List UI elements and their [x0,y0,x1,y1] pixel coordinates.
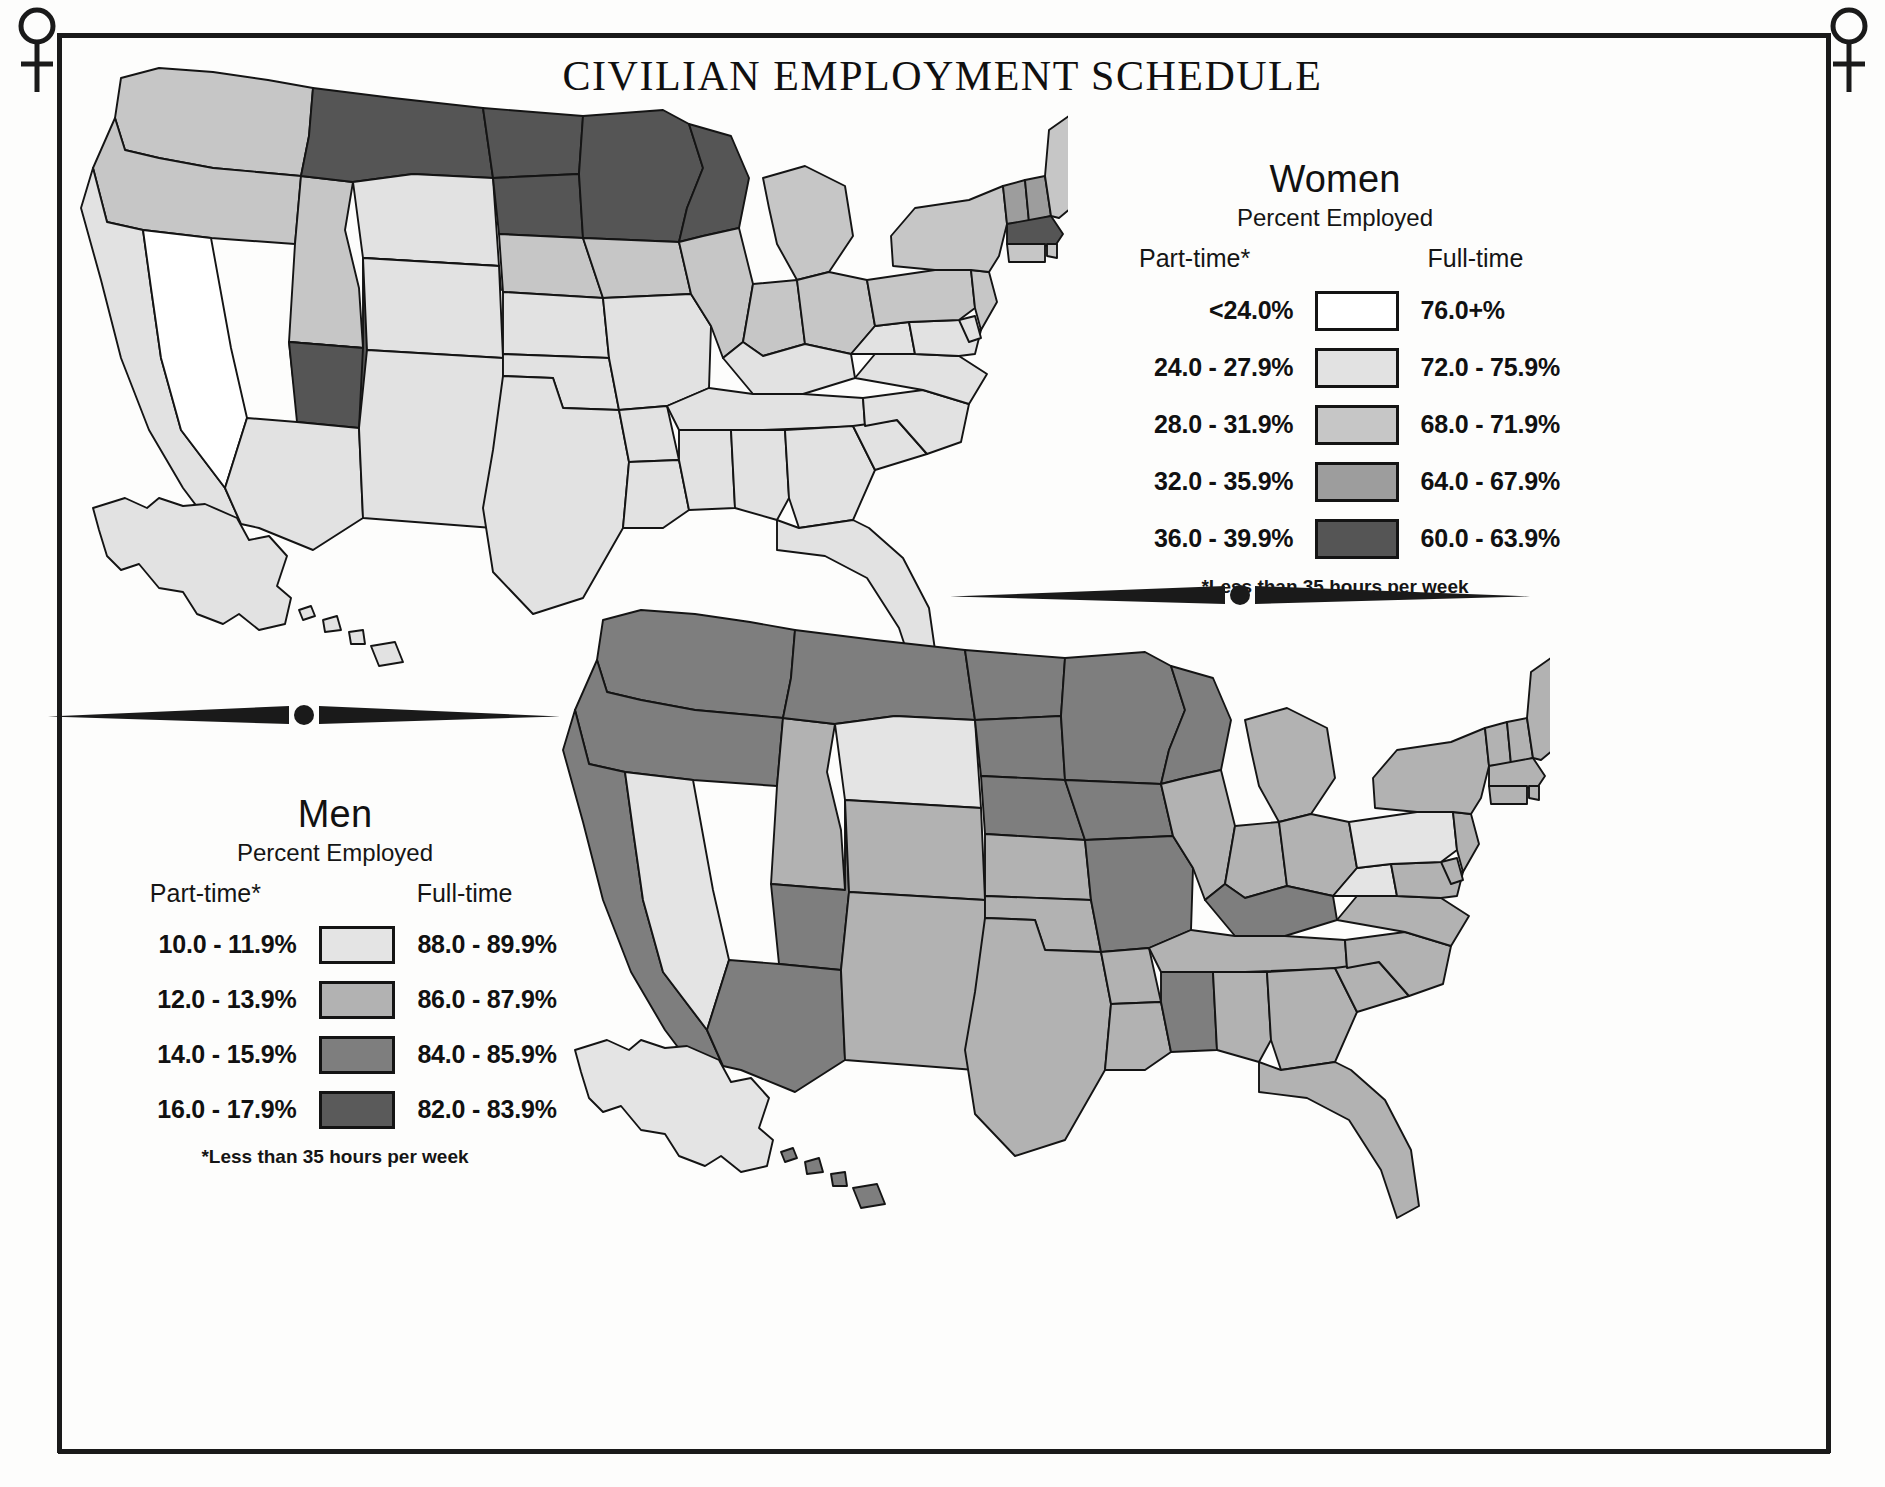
legend-swatch [1315,462,1398,502]
map-men-svg [540,600,1550,1240]
legend-fulltime-label: 60.0 - 63.9% [1399,524,1639,553]
legend-women-col-parttime: Part-time* [1075,244,1314,273]
legend-swatch [1315,291,1398,331]
states-men [563,610,985,1092]
legend-fulltime-label: 68.0 - 71.9% [1399,410,1639,439]
legend-swatch [319,1091,396,1129]
map-men [540,600,1550,1240]
legend-row: 36.0 - 39.9% 60.0 - 63.9% [1075,519,1595,559]
legend-row: 10.0 - 11.9% 88.0 - 89.9% [95,926,575,964]
legend-men-title: Men [95,795,575,835]
legend-women-subtitle: Percent Employed [1075,204,1595,232]
legend-men-footnote: *Less than 35 hours per week [95,1146,575,1168]
legend-row: <24.0% 76.0+% [1075,291,1595,331]
legend-fulltime-label: 88.0 - 89.9% [395,930,619,959]
states-women [81,68,503,550]
legend-row: 16.0 - 17.9% 82.0 - 83.9% [95,1091,575,1129]
states-men-northeast [1349,658,1550,872]
legend-parttime-label: 32.0 - 35.9% [1075,467,1315,496]
ornament-divider-women [950,578,1530,612]
legend-swatch [319,1036,396,1074]
legend-parttime-label: 10.0 - 11.9% [95,930,319,959]
frame-top-rule [58,33,1830,38]
legend-row: 24.0 - 27.9% 72.0 - 75.9% [1075,348,1595,388]
legend-parttime-label: 12.0 - 13.9% [95,985,319,1014]
ornament-divider-men [48,698,560,732]
legend-women: Women Percent Employed Part-time* Full-t… [1075,160,1595,598]
legend-fulltime-label: 72.0 - 75.9% [1399,353,1639,382]
states-women-northeast [867,116,1068,330]
legend-swatch [1315,348,1398,388]
legend-swatch [319,926,396,964]
frame-right-rule [1826,33,1831,1453]
legend-women-col-fulltime: Full-time [1356,244,1595,273]
legend-parttime-label: <24.0% [1075,296,1315,325]
legend-fulltime-label: 84.0 - 85.9% [395,1040,619,1069]
legend-men: Men Percent Employed Part-time* Full-tim… [95,795,575,1168]
legend-men-subtitle: Percent Employed [95,839,575,867]
legend-men-col-parttime: Part-time* [95,879,316,908]
legend-fulltime-label: 86.0 - 87.9% [395,985,619,1014]
legend-parttime-label: 36.0 - 39.9% [1075,524,1315,553]
frame-bottom-rule [58,1449,1830,1454]
legend-parttime-label: 28.0 - 31.9% [1075,410,1315,439]
legend-fulltime-label: 82.0 - 83.9% [395,1095,619,1124]
atlas-plate: CIVILIAN EMPLOYMENT SCHEDULE [0,0,1885,1487]
legend-row: 32.0 - 35.9% 64.0 - 67.9% [1075,462,1595,502]
legend-fulltime-label: 76.0+% [1399,296,1639,325]
legend-swatch [1315,405,1398,445]
legend-parttime-label: 14.0 - 15.9% [95,1040,319,1069]
legend-swatch [1315,519,1398,559]
legend-women-title: Women [1075,160,1595,200]
legend-parttime-label: 24.0 - 27.9% [1075,353,1315,382]
legend-fulltime-label: 64.0 - 67.9% [1399,467,1639,496]
legend-row: 14.0 - 15.9% 84.0 - 85.9% [95,1036,575,1074]
legend-row: 12.0 - 13.9% 86.0 - 87.9% [95,981,575,1019]
legend-swatch [319,981,396,1019]
legend-parttime-label: 16.0 - 17.9% [95,1095,319,1124]
legend-row: 28.0 - 31.9% 68.0 - 71.9% [1075,405,1595,445]
legend-men-col-fulltime: Full-time [354,879,575,908]
